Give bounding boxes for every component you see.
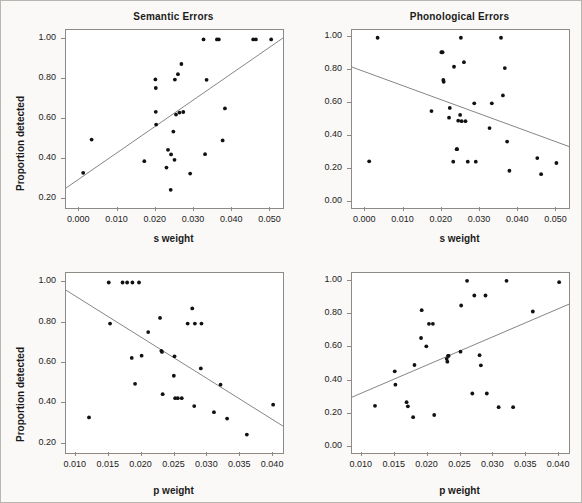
data-point xyxy=(505,279,509,283)
data-point xyxy=(431,322,435,326)
data-point xyxy=(432,413,436,417)
y-tick-mark xyxy=(347,380,351,381)
y-tick-mark xyxy=(61,322,65,323)
data-point xyxy=(445,360,449,364)
data-point xyxy=(373,404,377,408)
y-tick-mark xyxy=(61,38,65,39)
data-point xyxy=(452,65,456,69)
data-point xyxy=(192,404,196,408)
x-axis-label-s-weight: s weight xyxy=(56,233,291,244)
y-tick-label: 0.60 xyxy=(307,96,342,106)
data-point xyxy=(212,410,216,414)
x-tick-mark xyxy=(239,452,240,456)
data-point xyxy=(271,403,275,407)
panel-phonological-p-weight: p weight 0.000.200.400.600.801.000.0100.… xyxy=(292,252,582,503)
data-point xyxy=(462,60,466,64)
x-axis-label-p-weight: p weight xyxy=(56,485,291,496)
data-point xyxy=(180,396,184,400)
data-point xyxy=(503,66,507,70)
data-point xyxy=(245,433,249,437)
y-tick-mark xyxy=(61,362,65,363)
y-tick-mark xyxy=(347,413,351,414)
x-tick-mark xyxy=(394,452,395,456)
data-point xyxy=(160,350,164,354)
plot-area-semantic-p-weight xyxy=(65,272,284,454)
data-point xyxy=(178,111,182,115)
y-tick-label: 0.20 xyxy=(307,162,342,172)
data-point xyxy=(488,126,492,130)
data-point xyxy=(531,310,535,314)
plot-area-phonological-p-weight xyxy=(351,272,570,454)
y-tick-label: 0.80 xyxy=(307,63,342,73)
x-tick-mark xyxy=(361,452,362,456)
data-point xyxy=(142,159,146,163)
data-point xyxy=(442,80,446,84)
x-tick-mark xyxy=(558,452,559,456)
data-point xyxy=(107,281,111,285)
x-tick-label: 0.010 xyxy=(97,214,137,224)
y-tick-mark xyxy=(61,118,65,119)
data-point xyxy=(90,138,94,142)
trend-line xyxy=(66,38,283,188)
data-point xyxy=(130,356,134,360)
y-tick-mark xyxy=(61,78,65,79)
data-point xyxy=(474,160,478,164)
data-point xyxy=(108,322,112,326)
data-point xyxy=(171,130,175,134)
data-point xyxy=(217,38,221,42)
y-tick-mark xyxy=(61,402,65,403)
data-point xyxy=(203,152,207,156)
data-point xyxy=(470,392,474,396)
y-tick-mark xyxy=(61,198,65,199)
data-point xyxy=(174,113,178,117)
data-point xyxy=(455,147,459,151)
y-tick-mark xyxy=(61,281,65,282)
data-point xyxy=(499,36,503,40)
data-point xyxy=(451,160,455,164)
y-tick-label: 1.00 xyxy=(21,275,56,285)
x-tick-label: 0.000 xyxy=(344,214,384,224)
x-tick-label: 0.050 xyxy=(535,214,575,224)
data-point xyxy=(430,109,434,113)
y-tick-mark xyxy=(347,446,351,447)
x-tick-mark xyxy=(78,207,79,211)
y-tick-label: 0.20 xyxy=(21,437,56,447)
x-tick-label: 0.000 xyxy=(58,214,98,224)
y-tick-label: 1.00 xyxy=(21,32,56,42)
x-tick-mark xyxy=(108,452,109,456)
y-tick-label: 0.80 xyxy=(307,307,342,317)
data-point xyxy=(158,316,162,320)
x-tick-label: 0.010 xyxy=(383,214,423,224)
x-tick-label: 0.030 xyxy=(459,214,499,224)
y-tick-label: 0.60 xyxy=(307,340,342,350)
data-point xyxy=(485,392,489,396)
data-point xyxy=(200,322,204,326)
data-point xyxy=(173,354,177,358)
x-tick-mark xyxy=(141,452,142,456)
x-tick-label: 0.040 xyxy=(252,459,292,469)
data-point xyxy=(169,188,173,192)
data-point xyxy=(460,119,464,123)
x-tick-mark xyxy=(492,452,493,456)
y-axis-label-proportion-detected: Proportion detected xyxy=(15,96,26,191)
data-point xyxy=(121,281,125,285)
x-tick-label: 0.040 xyxy=(538,459,578,469)
x-tick-mark xyxy=(174,452,175,456)
data-point xyxy=(472,101,476,105)
y-tick-mark xyxy=(347,36,351,37)
y-tick-label: 0.40 xyxy=(21,396,56,406)
data-point xyxy=(173,78,177,82)
data-point xyxy=(193,322,197,326)
x-tick-mark xyxy=(272,452,273,456)
y-tick-label: 1.00 xyxy=(307,274,342,284)
data-point xyxy=(137,281,141,285)
data-point xyxy=(205,78,209,82)
data-point xyxy=(393,369,397,373)
data-point xyxy=(225,417,229,421)
data-point xyxy=(254,38,258,42)
x-tick-mark xyxy=(403,207,404,211)
data-point xyxy=(420,308,424,312)
data-point xyxy=(466,160,470,164)
data-point xyxy=(406,404,410,408)
data-point xyxy=(413,363,417,367)
